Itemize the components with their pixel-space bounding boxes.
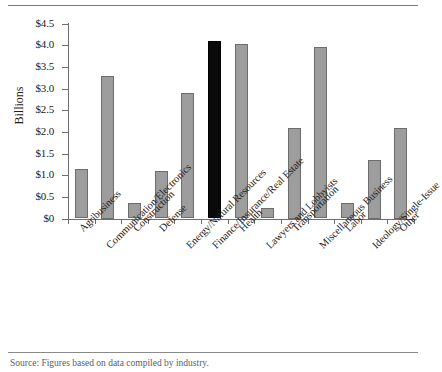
y-axis-tick-label: $4.0 [0, 39, 54, 50]
y-axis-tick [62, 45, 68, 46]
bar [75, 169, 88, 219]
y-axis-tick-label: $2.0 [0, 126, 54, 137]
y-axis-tick [62, 89, 68, 90]
bar [181, 93, 194, 219]
y-axis-line [68, 23, 69, 219]
bottom-divider-rule [8, 352, 418, 353]
y-axis-tick [62, 24, 68, 25]
y-axis-tick-label: $3.0 [0, 83, 54, 94]
y-axis-tick-label: $0.5 [0, 191, 54, 202]
y-axis-tick [62, 132, 68, 133]
y-axis-tick-label: $3.5 [0, 61, 54, 72]
y-axis-tick [62, 154, 68, 155]
y-axis-tick [62, 197, 68, 198]
bar [208, 41, 221, 219]
y-axis-tick [62, 175, 68, 176]
y-axis-tick-label: $0 [0, 213, 54, 224]
y-axis-tick-label: $1.0 [0, 169, 54, 180]
y-axis-tick-label: $1.5 [0, 148, 54, 159]
y-axis-tick-label: $4.5 [0, 18, 54, 29]
bar [394, 128, 407, 219]
y-axis-tick [62, 110, 68, 111]
source-note: Source: Figures based on data compiled b… [10, 358, 209, 369]
y-axis-tick [62, 67, 68, 68]
x-axis-tick [68, 219, 69, 224]
y-axis-tick-label: $2.5 [0, 104, 54, 115]
